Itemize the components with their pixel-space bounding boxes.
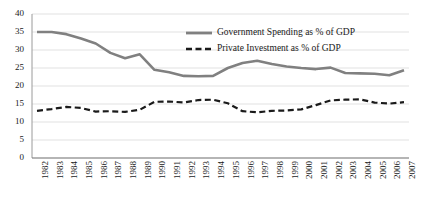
y-tick-label: 15 bbox=[4, 99, 24, 108]
y-tick-label: 20 bbox=[4, 81, 24, 90]
chart-figure: 4035302520151050 19821983198419851986198… bbox=[0, 0, 430, 198]
x-tick-label: 2000 bbox=[305, 161, 314, 179]
x-tick-label: 2005 bbox=[379, 161, 388, 179]
legend-label-private-investment: Private Investment as % of GDP bbox=[217, 43, 341, 53]
series-line-private-investment bbox=[37, 99, 404, 112]
x-tick-label: 1988 bbox=[129, 161, 138, 179]
x-tick-label: 1986 bbox=[100, 161, 109, 179]
x-tick-label: 1995 bbox=[232, 161, 241, 179]
x-tick-label: 1985 bbox=[85, 161, 94, 179]
x-tick-label: 2002 bbox=[335, 161, 344, 179]
x-tick-label: 1982 bbox=[41, 161, 50, 179]
legend-swatch-group bbox=[186, 33, 212, 49]
x-tick-label: 1994 bbox=[217, 161, 226, 179]
x-tick-label: 2006 bbox=[393, 161, 402, 179]
legend-label-government-spending: Government Spending as % of GDP bbox=[217, 27, 355, 37]
x-tick-label: 2001 bbox=[320, 161, 329, 179]
y-tick-label: 30 bbox=[4, 45, 24, 54]
x-tick-label: 1990 bbox=[158, 161, 167, 179]
y-tick-label: 40 bbox=[4, 9, 24, 18]
x-tick-label: 1998 bbox=[276, 161, 285, 179]
x-tick-label: 1996 bbox=[247, 161, 256, 179]
y-tick-label: 10 bbox=[4, 117, 24, 126]
y-tick-label: 35 bbox=[4, 27, 24, 36]
x-tick-label: 2004 bbox=[364, 161, 373, 179]
y-tick-label: 0 bbox=[4, 153, 24, 162]
series-line-government-spending bbox=[37, 32, 404, 76]
x-tick-label: 1989 bbox=[144, 161, 153, 179]
x-tick-label: 1999 bbox=[291, 161, 300, 179]
x-tick-label: 1984 bbox=[70, 161, 79, 179]
x-tick-label: 1993 bbox=[202, 161, 211, 179]
x-tick-label: 2003 bbox=[349, 161, 358, 179]
x-tick-label: 1987 bbox=[114, 161, 123, 179]
x-tick-label: 1983 bbox=[56, 161, 65, 179]
y-tick-label: 25 bbox=[4, 63, 24, 72]
x-tick-label: 1992 bbox=[188, 161, 197, 179]
x-tick-label: 1997 bbox=[261, 161, 270, 179]
x-tick-label: 2007 bbox=[408, 161, 417, 179]
x-tick-label: 1991 bbox=[173, 161, 182, 179]
y-tick-label: 5 bbox=[4, 135, 24, 144]
